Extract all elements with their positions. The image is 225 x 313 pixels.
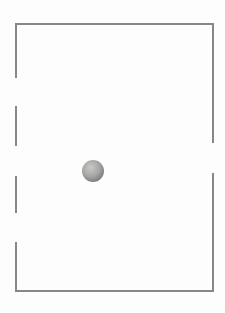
enclosure-figure [0,0,225,313]
figure-stage [0,0,225,313]
ball [82,160,104,182]
